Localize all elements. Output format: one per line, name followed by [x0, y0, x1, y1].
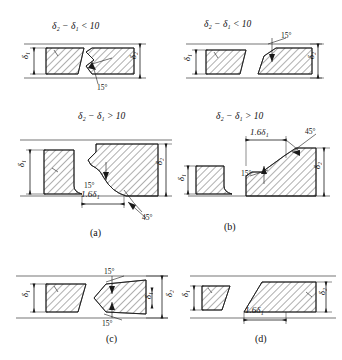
dimension-delta1-c: δ₁ [21, 290, 30, 297]
angle-15-tl: 15° [97, 84, 108, 92]
drawing-sheet: δ₂ − δ₁ < 10 δ₂ − δ₁ < 10 δ₁ δ₂ 15° δ₁ δ… [0, 0, 342, 360]
dimension-delta2-c: δ₂ [165, 290, 174, 297]
dimension-delta1-d: δ₁ [181, 290, 190, 297]
angle-15-tr: 15° [281, 32, 292, 40]
dimension-delta2-d: δ₂ [318, 288, 327, 295]
condition-top-right: δ₂ − δ₁ < 10 [204, 20, 251, 30]
dimension-delta1-inner-c: δ₁ [144, 292, 153, 299]
dimension-delta1-tr: δ₁ [183, 54, 192, 61]
dimension-delta1-b: δ₁ [177, 174, 186, 181]
dimension-delta1-a: δ₁ [17, 160, 26, 167]
angle-15-b: 15° [241, 170, 252, 178]
dimension-16delta1-d: 1.6δ₁ [245, 306, 264, 315]
dimension-delta2-b: δ₂ [313, 162, 322, 169]
angle-15-bottom-c: 15° [102, 320, 113, 328]
dimension-16delta1-a: 1.6δ₁ [81, 190, 100, 199]
dimension-delta2-a: δ₂ [155, 158, 164, 165]
caption-panel-d: (d) [255, 334, 267, 344]
condition-top-left: δ₂ − δ₁ < 10 [52, 22, 99, 32]
condition-panel-b: δ₂ − δ₁ > 10 [216, 112, 263, 122]
dimension-delta1-tl: δ₁ [21, 52, 30, 59]
angle-45-a: 45° [142, 214, 153, 222]
dimension-delta2-tl: δ₂ [129, 52, 138, 59]
caption-panel-b: (b) [224, 222, 236, 232]
dimension-delta2-tr: δ₂ [307, 52, 316, 59]
dimension-16delta1-b: 1.6δ₁ [250, 128, 269, 137]
angle-45-b: 45° [305, 128, 316, 136]
angle-15-top-c: 15° [104, 268, 115, 276]
caption-panel-c: (c) [106, 334, 117, 344]
technical-drawing-canvas [0, 0, 342, 360]
caption-panel-a: (a) [90, 228, 101, 238]
condition-panel-a: δ₂ − δ₁ > 10 [78, 112, 125, 122]
